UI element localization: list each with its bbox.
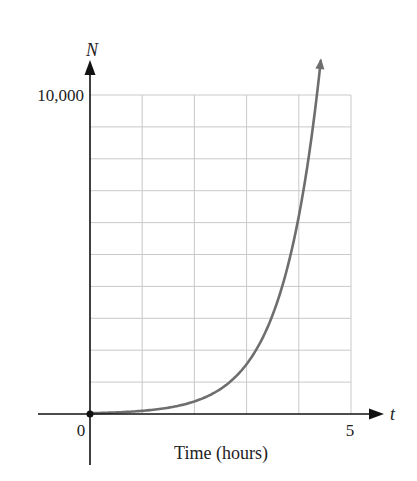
y-axis-arrow-icon bbox=[85, 60, 96, 75]
curve-arrow-icon bbox=[315, 58, 324, 69]
exponential-growth-chart: N t 10,000 0 5 Time (hours) bbox=[0, 0, 417, 481]
x-tick-label-5: 5 bbox=[346, 421, 355, 440]
x-tick-label-0: 0 bbox=[77, 421, 86, 440]
origin-point bbox=[87, 411, 94, 418]
x-axis-variable-label: t bbox=[390, 404, 396, 424]
x-axis-title: Time (hours) bbox=[174, 443, 268, 464]
growth-curve bbox=[90, 58, 324, 413]
growth-curve-path bbox=[90, 61, 321, 413]
y-axis-variable-label: N bbox=[85, 40, 99, 60]
y-tick-label-10000: 10,000 bbox=[37, 86, 84, 105]
x-axis-arrow-icon bbox=[369, 409, 384, 420]
